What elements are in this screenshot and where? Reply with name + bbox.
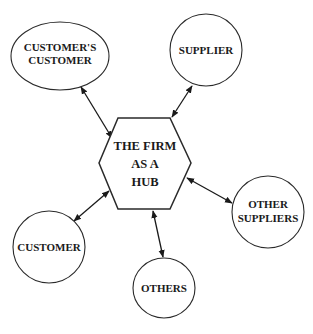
node-label-line-2: SUPPLIERS (238, 212, 299, 224)
node-others: OTHERS (133, 258, 195, 318)
edge-firm-supplier (172, 86, 192, 117)
node-label: OTHERS (141, 282, 187, 294)
node-label-line-1: OTHER (248, 198, 289, 210)
edge-firm-other-suppliers (187, 178, 232, 203)
hub-label-line-1: THE FIRM (114, 139, 177, 153)
node-label-line-2: CUSTOMER (28, 54, 92, 66)
node-label-line-1: CUSTOMER'S (24, 41, 97, 53)
hub-diagram: THE FIRM AS A HUB CUSTOMER'S CUSTOMER SU… (0, 0, 313, 334)
hub-firm: THE FIRM AS A HUB (99, 118, 191, 209)
edge-firm-customer (74, 191, 109, 221)
node-label: CUSTOMER (17, 241, 81, 253)
edge-firm-others (153, 211, 163, 257)
hub-label-line-2: AS A (131, 157, 158, 171)
node-other-suppliers: OTHER SUPPLIERS (232, 176, 304, 248)
node-supplier: SUPPLIER (170, 14, 242, 86)
edge-firm-customers-customer (81, 87, 112, 138)
node-customers-customer: CUSTOMER'S CUSTOMER (11, 22, 109, 90)
hub-label-line-3: HUB (131, 175, 158, 189)
node-label: SUPPLIER (179, 44, 234, 56)
node-customer: CUSTOMER (13, 211, 85, 283)
